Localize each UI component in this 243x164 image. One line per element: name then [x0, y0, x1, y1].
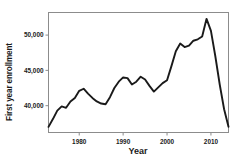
x-axis-title: Year [48, 146, 228, 156]
x-tick-label: 1990 [116, 138, 131, 145]
x-tick-label: 2000 [160, 138, 175, 145]
x-tick-label: 2010 [204, 138, 219, 145]
plot-frame [49, 13, 229, 133]
x-tick-label: 1980 [72, 138, 87, 145]
y-tick-label: 40,000 [24, 102, 44, 110]
y-tick-label: 50,000 [24, 31, 44, 39]
x-axis-ticks: 1980199020002010 [72, 133, 218, 145]
line-chart-plot: 40,00045,00050,000 1980199020002010 [0, 0, 243, 164]
y-tick-label: 45,000 [24, 67, 44, 75]
chart-figure: First year enrollment 40,00045,00050,000… [0, 0, 243, 164]
y-axis-ticks: 40,00045,00050,000 [24, 31, 49, 110]
